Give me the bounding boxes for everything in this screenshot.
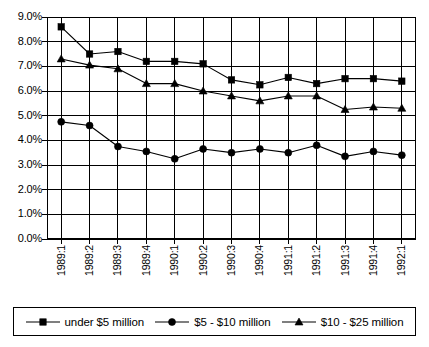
data-point xyxy=(58,118,65,125)
data-point xyxy=(143,148,150,155)
data-point xyxy=(172,58,178,64)
legend-triangle-marker-icon xyxy=(282,316,316,328)
chart-legend: under $5 million$5 - $10 million$10 - $2… xyxy=(13,307,416,336)
data-point xyxy=(285,149,292,156)
legend-label: under $5 million xyxy=(65,316,145,328)
data-point xyxy=(313,80,319,86)
data-point xyxy=(313,142,320,149)
gridlines xyxy=(47,17,416,239)
legend-item[interactable]: $5 - $10 million xyxy=(155,316,270,328)
data-point xyxy=(86,122,93,129)
legend-item[interactable]: $10 - $25 million xyxy=(282,316,404,328)
data-point xyxy=(171,155,178,162)
data-point xyxy=(200,61,206,67)
data-point xyxy=(228,149,235,156)
line-chart: 0.0%1.0%2.0%3.0%4.0%5.0%6.0%7.0%8.0%9.0%… xyxy=(0,0,429,347)
data-point xyxy=(342,75,348,81)
data-point xyxy=(228,77,234,83)
chart-canvas xyxy=(0,0,429,347)
data-point xyxy=(114,143,121,150)
data-point xyxy=(370,75,376,81)
data-point xyxy=(86,51,92,57)
data-point xyxy=(399,78,405,84)
data-point xyxy=(200,145,207,152)
data-point xyxy=(342,153,349,160)
data-point xyxy=(115,48,121,54)
data-point xyxy=(369,103,377,110)
legend-item[interactable]: under $5 million xyxy=(26,316,145,328)
legend-label: $5 - $10 million xyxy=(194,316,270,328)
data-point xyxy=(398,152,405,159)
legend-circle-marker-icon xyxy=(155,316,189,328)
data-point xyxy=(285,74,291,80)
data-point xyxy=(58,24,64,30)
data-point xyxy=(57,55,65,62)
data-point xyxy=(257,82,263,88)
data-point xyxy=(370,148,377,155)
legend-square-marker-icon xyxy=(26,316,60,328)
legend-label: $10 - $25 million xyxy=(321,316,404,328)
data-point xyxy=(256,145,263,152)
data-point xyxy=(143,58,149,64)
